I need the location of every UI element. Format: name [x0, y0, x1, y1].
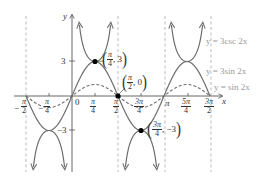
- x-tick-pi-over-4: π4: [90, 98, 96, 115]
- origin-label: 0: [75, 98, 80, 107]
- curve-3csc2x-branch-3-left: [171, 25, 187, 62]
- y-tick-3: 3: [61, 57, 66, 66]
- x-tick-pi: π: [165, 99, 170, 108]
- x-tick-neg-pi-over-4-sign: −: [38, 104, 43, 113]
- curve-3csc2x-branch-1-left: [79, 25, 95, 62]
- curve-3csc2x-branch-3-right: [187, 25, 203, 62]
- y-axis-label: y: [63, 12, 67, 21]
- point-marker-2: [138, 128, 143, 133]
- y-tick-neg3: −3: [57, 126, 67, 135]
- x-axis-label: x: [222, 97, 226, 106]
- point-label-pi2-0: ( π2 , 0 ): [122, 74, 147, 91]
- x-tick-5pi-over-4: 5π4: [181, 98, 191, 115]
- curve-3csc2x-branch-0-left: [33, 131, 49, 168]
- x-tick-neg-pi-over-2-sign: −: [14, 104, 19, 113]
- x-tick-neg-pi-over-2: π2: [21, 98, 27, 115]
- x-tick-neg-pi-over-4: π4: [44, 98, 50, 115]
- legend-3sin2x: y = 3sin 2x: [206, 67, 246, 76]
- point-label-pi4-3: ( π4 , 3 ): [102, 51, 127, 68]
- curve-3csc2x-branch-0-right: [49, 131, 65, 168]
- legend-3csc2x: y = 3csc 2x: [206, 37, 247, 46]
- point-marker-0: [92, 59, 97, 64]
- x-tick-3pi-over-2: 3π2: [204, 98, 214, 115]
- legend-sin2x: y = sin 2x: [214, 83, 250, 92]
- x-tick-pi-over-2: π2: [113, 98, 119, 115]
- x-tick-3pi-over-4: 3π4: [134, 98, 144, 115]
- point-label-3pi4-neg3: ( 3π4 , −3 ): [147, 121, 181, 138]
- curve-3csc2x-branch-2-left: [125, 131, 141, 168]
